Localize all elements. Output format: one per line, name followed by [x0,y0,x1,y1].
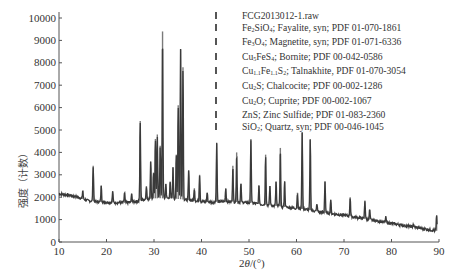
legend-entry: Cu1.1Fe1.1S2; Talnakhite, PDF 01-070-305… [242,65,406,80]
legend-dash-icon [215,53,217,60]
legend-dash-icon [215,123,217,130]
y-tick-label: 8000 [34,56,57,68]
legend-entry: Fe3O4; Magnetite, syn; PDF 01-071-6336 [242,36,406,51]
legend-entry: Cu2O; Cuprite; PDF 00-002-1067 [242,95,406,110]
y-tick-label: 5000 [34,124,57,136]
x-tick-label: 80 [386,245,398,257]
x-tick-label: 70 [339,245,351,257]
legend-dash-icon [215,24,217,31]
y-tick-label: 6000 [34,101,57,113]
legend-entry: ZnS; Zinc Sulfide; PDF 01-083-2360 [242,109,406,121]
legend-entry: Cu5FeS4; Bornite; PDF 00-042-0586 [242,51,406,66]
x-tick-label: 50 [244,245,256,257]
y-tick-label: 1000 [34,213,57,225]
y-tick-label: 3000 [34,168,57,180]
legend-entry: FCG2013012-1.raw [242,10,406,22]
x-tick-label: 20 [101,245,113,257]
legend-entry: Fe2SiO4; Fayalite, syn; PDF 01-070-1861 [242,22,406,37]
y-tick-label: 9000 [34,34,57,46]
legend-entry: SiO2; Quartz, syn; PDF 00-046-1045 [242,121,406,136]
x-tick-label: 90 [434,245,446,257]
legend-dash-icon [215,97,217,104]
y-tick-label: 4000 [34,146,57,158]
legend-dash-icon [215,82,217,89]
legend: FCG2013012-1.rawFe2SiO4; Fayalite, syn; … [242,10,406,135]
x-tick-label: 30 [149,245,161,257]
legend-dash-icon [215,67,217,74]
legend-dash-icon [215,12,217,19]
legend-entry: Cu2S; Chalcocite; PDF 00-002-1286 [242,80,406,95]
legend-dash-icon [215,111,217,118]
legend-dash-icon [215,38,217,45]
y-tick-label: 2000 [34,191,57,203]
y-tick-label: 7000 [34,79,57,91]
x-tick-label: 40 [196,245,208,257]
y-axis-label: 强度（计数） [15,148,30,208]
x-tick-label: 10 [54,245,66,257]
x-axis-label: 2θ/(°) [239,257,265,269]
x-tick-label: 60 [291,245,303,257]
y-tick-label: 10000 [29,12,57,24]
